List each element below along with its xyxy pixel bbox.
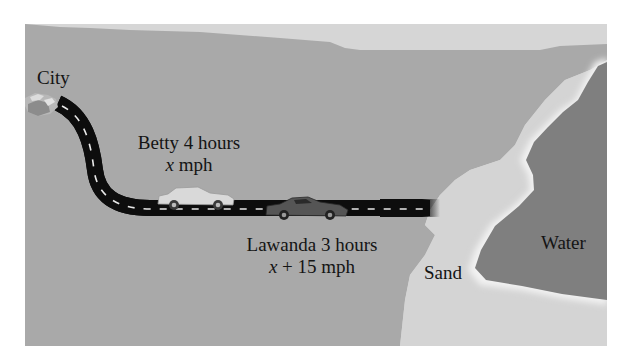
betty-time-label: Betty 4 hours <box>128 132 250 154</box>
betty-speed-unit: mph <box>174 154 213 175</box>
lawanda-time-label: Lawanda 3 hours <box>232 234 392 256</box>
city-label: City <box>37 67 70 89</box>
lawanda-speed-label: x + 15 mph <box>232 256 392 278</box>
scene-illustration <box>0 0 631 359</box>
water-label: Water <box>541 232 586 254</box>
sand-label: Sand <box>424 262 462 284</box>
betty-speed-variable: x <box>166 154 174 175</box>
lawanda-speed-expression: + 15 mph <box>277 256 355 277</box>
lawanda-label: Lawanda 3 hours x + 15 mph <box>232 234 392 278</box>
betty-speed-label: x mph <box>128 154 250 176</box>
betty-label: Betty 4 hours x mph <box>128 132 250 176</box>
travel-problem-diagram: City Betty 4 hours x mph Lawanda 3 hours… <box>0 0 631 359</box>
